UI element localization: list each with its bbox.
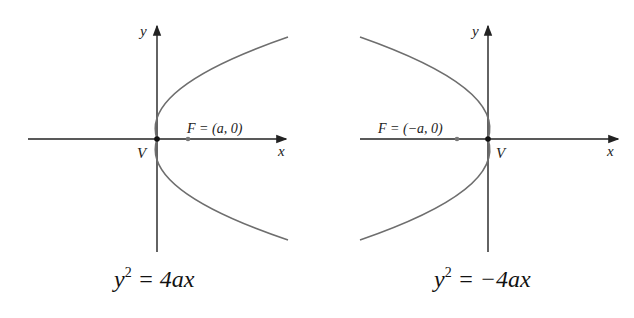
equation-exponent: 2 (125, 265, 132, 280)
vertex-point (485, 136, 491, 142)
equation-exponent: 2 (445, 265, 452, 280)
vertex-label: V (137, 145, 148, 161)
equation-base: y (432, 266, 445, 292)
focus-point (455, 137, 460, 142)
x-axis-label: x (277, 143, 285, 159)
equation-rhs: = −4ax (452, 266, 531, 292)
x-axis-label: x (606, 143, 614, 159)
equation: y2 = 4ax (112, 265, 195, 292)
vertex-point (154, 136, 160, 142)
y-axis-label: y (470, 23, 479, 39)
equation-base: y (112, 266, 125, 292)
equation-rhs: = 4ax (132, 266, 195, 292)
equation: y2 = −4ax (432, 265, 531, 292)
y-axis-label: y (138, 23, 147, 39)
parabolas-figure: y x V F = (a, 0) y2 = 4ax y x V F = (−a,… (0, 0, 634, 318)
focus-point (186, 137, 191, 142)
left-diagram: y x V F = (a, 0) y2 = 4ax (28, 23, 288, 292)
vertex-label: V (496, 145, 507, 161)
focus-label: F = (−a, 0) (377, 121, 443, 137)
focus-label: F = (a, 0) (186, 121, 243, 137)
right-diagram: y x V F = (−a, 0) y2 = −4ax (360, 23, 618, 292)
